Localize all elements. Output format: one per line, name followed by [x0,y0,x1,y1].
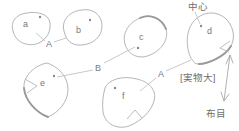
leader-line-A-to-d [166,60,191,71]
leader-line-f-to-A [140,78,156,91]
connector-label-A-bottom: A [158,69,164,79]
piece-c-outline [124,16,166,57]
piece-b-label: b [76,25,81,35]
piece-e-label: e [40,78,45,88]
piece-f-notch [127,110,142,119]
center-annotation: 中心 [188,1,208,12]
leader-line-A-to-b [54,38,66,42]
piece-e-center-dot [53,75,55,77]
piece-d-outline [187,13,233,64]
leader-line-a-to-A [36,33,45,41]
piece-a-label: a [23,19,28,29]
pattern-diagram-canvas: a b c d e f A B [0,0,239,131]
piece-d-center-dot [200,25,202,27]
piece-d-label: d [207,26,212,36]
piece-b-outline [63,10,102,45]
piece-b-center-dot [89,19,91,21]
piece-c-center-dot [137,47,139,49]
piece-d-thick-edge [199,46,231,64]
grain-annotation: 布目 [206,108,226,119]
pattern-diagram: a b c d e f A B [0,0,239,131]
leader-line-center-to-d-dot [195,12,200,24]
leader-line-B-to-c [104,47,135,63]
connector-label-B: B [95,63,101,73]
piece-f-label: f [122,91,125,101]
piece-e-notch [25,79,37,93]
piece-c-label: c [139,32,144,42]
piece-a-outline [12,12,50,44]
actual-size-annotation: [実物大] [180,72,215,83]
connector-label-A-top: A [46,39,52,49]
piece-a-center-dot [39,16,41,18]
piece-c-thick-edge [140,16,166,29]
grain-direction-arrow [221,55,233,101]
piece-f-center-dot [114,87,116,89]
